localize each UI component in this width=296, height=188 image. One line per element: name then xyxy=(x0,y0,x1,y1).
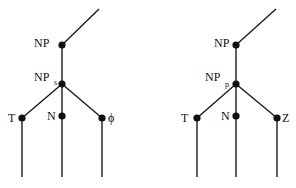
left-phi-node xyxy=(98,114,105,121)
left-n-label: N xyxy=(47,109,56,123)
right-t-node xyxy=(193,114,200,121)
left-nps-node xyxy=(58,80,65,87)
left-t-node xyxy=(18,114,25,121)
tree-diagram: NP NP s T N ϕ NP NP p T N xyxy=(0,0,296,188)
left-nps-subscript: s xyxy=(54,78,57,87)
left-np-node xyxy=(58,41,65,48)
left-tree: NP NP s T N ϕ xyxy=(8,9,114,177)
left-t-label: T xyxy=(8,111,16,125)
right-npp-to-t-edge xyxy=(197,84,236,118)
diagram-canvas: NP NP s T N ϕ NP NP p T N xyxy=(0,0,296,188)
right-n-label: N xyxy=(221,109,230,123)
left-nps-to-t-edge xyxy=(22,84,62,118)
right-z-node xyxy=(273,114,280,121)
right-n-node xyxy=(232,112,239,119)
right-t-label: T xyxy=(181,111,189,125)
right-np-node xyxy=(232,41,239,48)
right-npp-label: NP xyxy=(205,70,221,84)
right-tree: NP NP p T N Z xyxy=(181,9,289,177)
left-phi-label: ϕ xyxy=(108,111,114,125)
left-nps-label: NP xyxy=(34,70,50,84)
left-n-node xyxy=(58,112,65,119)
right-npp-to-z-edge xyxy=(236,84,277,118)
right-np-label: NP xyxy=(214,36,230,50)
left-np-label: NP xyxy=(34,36,50,50)
right-npp-subscript: p xyxy=(225,80,229,89)
left-top-edge xyxy=(62,9,99,45)
right-top-edge xyxy=(236,9,276,45)
right-npp-node xyxy=(232,80,239,87)
right-z-label: Z xyxy=(282,111,289,125)
left-nps-to-phi-edge xyxy=(62,84,102,118)
